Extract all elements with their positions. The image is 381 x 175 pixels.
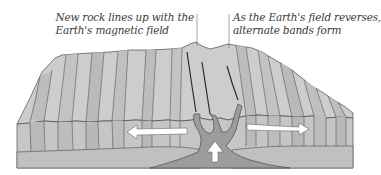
annotation-field-reverses-line-1: As the Earth's field reverses, (233, 11, 381, 24)
ridge-top-surface (17, 42, 353, 124)
annotation-new-rock: New rock lines up with the Earth's magne… (55, 11, 194, 37)
annotation-field-reverses: As the Earth's field reverses, alternate… (233, 11, 381, 37)
annotation-field-reverses-line-2: alternate bands form (233, 24, 381, 37)
annotation-new-rock-line-1: New rock lines up with the (55, 11, 194, 24)
annotation-new-rock-line-2: Earth's magnetic field (55, 24, 194, 37)
